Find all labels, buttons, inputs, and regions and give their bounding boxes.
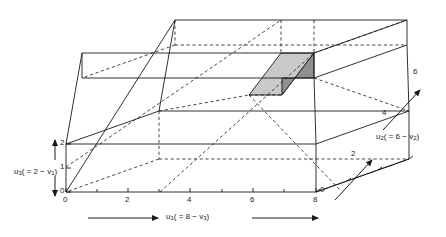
tick-label-depth-4: 4 (382, 109, 386, 117)
axis-label-depth-expr-prefix: ( = 6 − v (384, 132, 413, 141)
tick-label-vertical-0: 0 (60, 187, 64, 195)
tick-label-horizontal-0: 0 (63, 196, 67, 204)
upper-slab-top-face (82, 20, 407, 53)
construction-lines-group (66, 20, 409, 192)
diagonal-trace-2 (160, 53, 314, 192)
lower-slab-top-left-edge (66, 111, 159, 144)
shaded-region-group (249, 53, 314, 95)
axis-label-vertical-expr-prefix: ( = 2 − v (22, 167, 51, 176)
horizontal-axis-ticks (66, 188, 316, 192)
axis-label-horizontal: u1( = 8 − v3) (166, 213, 209, 221)
hidden-lower-back-left-diag (66, 159, 159, 192)
axis-label-vertical-expr-suffix: ) (55, 167, 58, 176)
right-wall-far-edge (407, 45, 409, 111)
diagonal-trace-3 (249, 95, 340, 190)
front-diagonal-main (66, 20, 175, 192)
axis-label-horizontal-expr-suffix: ) (207, 212, 210, 221)
tick-label-horizontal-4: 4 (187, 196, 191, 204)
tick-label-depth-2: 2 (351, 150, 355, 158)
upper-slab-right-bottom (314, 45, 407, 78)
lower-slab-group (66, 111, 409, 192)
left-wall-front-edge (66, 53, 82, 144)
tick-label-vertical-2: 2 (60, 139, 64, 147)
tick-label-horizontal-8: 8 (313, 196, 317, 204)
depth-arrow-upper (383, 90, 420, 130)
axis-label-horizontal-expr-prefix: ( = 8 − v (174, 212, 203, 221)
tick-label-depth-0: 0 (320, 186, 324, 194)
axis-label-depth-expr-suffix: ) (417, 132, 420, 141)
d-tick-3 (409, 156, 413, 159)
lower-slab-hidden-edges (66, 111, 409, 192)
tick-label-depth-6: 6 (413, 68, 417, 76)
axis-label-vertical: u3( = 2 − v1) (14, 168, 57, 176)
diagonal-trace-1 (66, 20, 281, 167)
plane-trace-upper-left (159, 95, 249, 111)
tick-label-vertical-1: 1 (60, 163, 64, 171)
tick-label-horizontal-2: 2 (125, 196, 129, 204)
hidden-back-diagonal (82, 45, 175, 78)
lower-slab-front-face (66, 144, 316, 192)
depth-rail-outer (316, 159, 409, 192)
plane-trace-upper-right (314, 78, 409, 111)
axis-label-depth: u2( = 6 − v2) (376, 133, 419, 141)
left-wall-top-edge (159, 20, 175, 111)
depth-axis-arrows (335, 90, 420, 200)
depth-axis-rails (316, 159, 409, 192)
tick-label-horizontal-6: 6 (250, 196, 254, 204)
depth-arrow-lower (335, 160, 372, 200)
front-face-diagonals (66, 20, 175, 192)
figure-canvas: 2 1 0 0 2 4 6 8 0 2 4 6 u3( = 2 − v1) u1… (0, 0, 446, 237)
upper-slab-group (82, 20, 407, 78)
upper-slab-hidden-edges (82, 20, 407, 78)
